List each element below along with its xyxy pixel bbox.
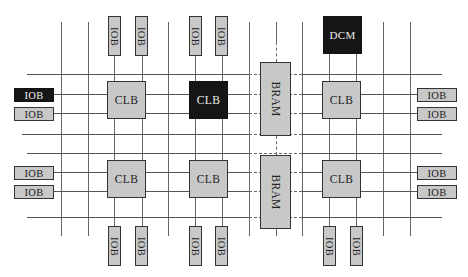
routing-line-vertical [356, 54, 357, 227]
iob-right-1: IOB [417, 88, 457, 102]
routing-line-horizontal [22, 134, 249, 135]
iob-left-2: IOB [14, 107, 54, 121]
iob-top-2: IOB [135, 16, 148, 56]
iob-right-4: IOB [417, 185, 457, 199]
routing-line-vertical [410, 22, 411, 236]
routing-line-vertical [383, 22, 384, 236]
clb-block: CLB [107, 160, 146, 198]
iob-top-3: IOB [189, 16, 202, 56]
iob-right-2: IOB [417, 107, 457, 121]
iob-top-1: IOB [108, 16, 121, 56]
routing-line-dashed [249, 153, 302, 154]
routing-line-horizontal [302, 74, 442, 75]
routing-line-horizontal [302, 217, 442, 218]
iob-bottom-2: IOB [135, 226, 148, 266]
bram-block: BRAM [260, 62, 291, 136]
routing-line-horizontal [302, 153, 442, 154]
routing-line-vertical [168, 22, 169, 236]
clb-block-highlighted: CLB [189, 81, 228, 119]
dcm-block: DCM [323, 16, 362, 54]
routing-line-dashed [276, 42, 277, 62]
routing-line-vertical [329, 54, 330, 227]
iob-left-3: IOB [14, 166, 54, 180]
iob-left-4: IOB [14, 185, 54, 199]
iob-bottom-6: IOB [350, 226, 363, 266]
clb-block: CLB [189, 160, 228, 198]
routing-line-horizontal [302, 134, 442, 135]
iob-bottom-3: IOB [189, 226, 202, 266]
routing-line-vertical [88, 22, 89, 236]
clb-block: CLB [107, 81, 146, 119]
iob-bottom-1: IOB [108, 226, 121, 266]
bram-block: BRAM [260, 155, 291, 229]
fpga-architecture-diagram: IOB IOB IOB IOB DCM IOB IOB IOB IOB IOB … [0, 0, 468, 277]
routing-line-horizontal [27, 153, 249, 154]
routing-line-vertical [249, 22, 250, 236]
routing-line-horizontal [27, 217, 249, 218]
iob-bottom-4: IOB [215, 226, 228, 266]
clb-block: CLB [322, 160, 361, 198]
iob-bottom-5: IOB [323, 226, 336, 266]
routing-line-vertical [276, 22, 277, 42]
clb-block: CLB [322, 81, 361, 119]
routing-line-vertical [302, 22, 303, 236]
routing-line-vertical [61, 22, 62, 236]
iob-right-3: IOB [417, 166, 457, 180]
iob-top-4: IOB [215, 16, 228, 56]
routing-line-horizontal [27, 74, 249, 75]
iob-left-1: IOB [14, 88, 54, 102]
routing-line-vertical [276, 229, 277, 236]
